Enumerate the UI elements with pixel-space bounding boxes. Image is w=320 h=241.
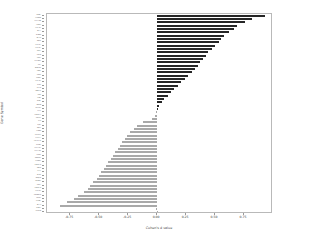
y-tick-mark (42, 171, 44, 172)
x-axis-title: Cohen's d value (46, 226, 272, 230)
x-tick-label: 0.50 (211, 216, 218, 219)
y-tick-mark (42, 165, 44, 166)
y-tick-mark (42, 25, 44, 26)
y-tick-mark (42, 95, 44, 96)
bar-slc6a8 (157, 18, 252, 20)
y-tick-mark (42, 81, 44, 82)
y-tick-label-kcnj10: KCNJ10 (36, 177, 41, 178)
y-tick-label-plp1: PLP1 (37, 111, 41, 112)
y-tick-mark (42, 161, 44, 162)
y-tick-mark (42, 168, 44, 169)
bar-kcnj10 (97, 178, 157, 180)
y-tick-mark (42, 41, 44, 42)
y-tick-label-gria1: GRIA1 (36, 197, 41, 198)
bar-camk2b (88, 188, 158, 190)
bar-slc1a3 (84, 191, 157, 193)
x-tick-label: -0.75 (65, 216, 73, 219)
bar-mki67 (157, 15, 265, 17)
y-tick-label-plod2: PLOD2 (36, 77, 41, 78)
bar-apoe (157, 101, 162, 103)
bar-clu (143, 121, 157, 123)
y-tick-mark (42, 141, 44, 142)
y-tick-label-tubb3: TUBB3 (36, 24, 41, 25)
y-tick-label-p2ry12: P2RY12 (35, 137, 41, 138)
y-tick-mark (42, 38, 44, 39)
bar-sparcl1 (155, 115, 157, 117)
y-tick-mark (42, 78, 44, 79)
y-tick-label-aqp1: AQP1 (37, 127, 41, 128)
y-tick-label-clu: CLU (38, 121, 41, 122)
bar-grin1 (120, 145, 157, 147)
bar-nrgn (157, 105, 159, 107)
y-tick-label-grin1: GRIN1 (36, 144, 41, 145)
y-tick-mark (42, 145, 44, 146)
y-tick-label-ndufa4: NDUFA4 (35, 67, 41, 68)
y-tick-label-slc2a3: SLC2A3 (35, 81, 41, 82)
y-tick-label-slc2a1: SLC2A1 (35, 27, 41, 28)
y-tick-label-s100b: S100B (36, 131, 41, 132)
bar-mbp (157, 95, 167, 97)
bar-slc16a1 (157, 61, 200, 63)
y-tick-label-slc6a1: SLC6A1 (35, 161, 41, 162)
y-tick-label-camk2a: CAMK2A (35, 164, 41, 165)
bar-rbfox3 (93, 181, 157, 183)
x-axis-ticks: -0.75-0.50-0.250.000.250.500.75 (46, 213, 272, 225)
bar-slc17a7 (118, 148, 157, 150)
y-tick-mark (42, 175, 44, 176)
y-tick-mark (42, 121, 44, 122)
y-tick-mark (42, 55, 44, 56)
y-tick-label-snap25: SNAP25 (35, 91, 41, 92)
y-tick-mark (42, 198, 44, 199)
y-tick-mark (42, 115, 44, 116)
y-tick-mark (42, 128, 44, 129)
y-tick-mark (42, 151, 44, 152)
y-tick-mark (42, 158, 44, 159)
y-tick-mark (42, 188, 44, 189)
y-tick-label-eno2: ENO2 (37, 71, 41, 72)
y-tick-mark (42, 58, 44, 59)
bar-tubb3 (157, 25, 237, 27)
y-tick-mark (42, 85, 44, 86)
bar-cx3cr1 (127, 135, 157, 137)
y-tick-mark (42, 191, 44, 192)
y-tick-label-gfap: GFAP (37, 84, 41, 85)
y-tick-label-dlg4: DLG4 (37, 174, 41, 175)
bar-aldoa (157, 35, 224, 37)
y-tick-mark (42, 211, 44, 212)
y-tick-label-slc3a2: SLC3A2 (35, 47, 41, 48)
y-tick-mark (42, 105, 44, 106)
y-tick-mark (42, 101, 44, 102)
y-tick-label-nrgn: NRGN (37, 104, 41, 105)
y-tick-mark (42, 88, 44, 89)
y-tick-label-gja1: GJA1 (38, 124, 42, 125)
bar-gja1 (137, 125, 157, 127)
bar-cd44 (157, 75, 188, 77)
y-tick-label-nefh: NEFH (37, 204, 41, 205)
y-tick-mark (42, 35, 44, 36)
y-tick-label-camk2b: CAMK2B (35, 187, 41, 188)
bar-stmn2 (67, 201, 157, 203)
bar-gfap (157, 85, 178, 87)
y-tick-label-vsnl1: VSNL1 (36, 207, 41, 208)
y-tick-mark (42, 205, 44, 206)
y-tick-label-slc16a1: SLC16A1 (34, 61, 41, 62)
y-tick-mark (42, 138, 44, 139)
y-tick-label-mbp: MBP (38, 94, 41, 95)
y-tick-label-slc6a8: SLC6A8 (35, 17, 41, 18)
y-tick-mark (42, 18, 44, 19)
y-tick-label-stmn2: STMN2 (36, 201, 41, 202)
bar-atp1a3 (157, 108, 158, 110)
x-tick-label: -0.50 (94, 216, 102, 219)
bar-snca (104, 168, 157, 170)
x-tick-label: 0.75 (240, 216, 247, 219)
bar-slc3a2 (157, 48, 211, 50)
y-tick-mark (42, 178, 44, 179)
bar-sdha (157, 55, 206, 57)
y-tick-label-cx3cr1: CX3CR1 (35, 134, 41, 135)
plot-area (46, 13, 272, 213)
y-tick-mark (42, 31, 44, 32)
bar-p2ry12 (125, 138, 157, 140)
y-tick-mark (42, 51, 44, 52)
y-tick-label-pgk1: PGK1 (37, 57, 41, 58)
y-tick-mark (42, 91, 44, 92)
